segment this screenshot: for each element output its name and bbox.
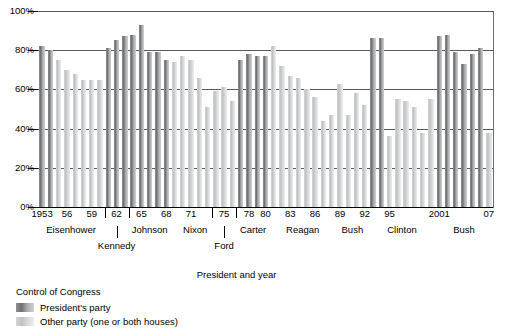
bar-2005 [470,54,475,207]
bar-1959 [89,80,94,207]
bar-1976 [230,101,235,207]
x-tick-label-80: 80 [260,208,271,219]
president-leader-line-kennedy [117,226,118,238]
bar-1968 [164,60,169,207]
bar-2000 [428,99,433,207]
president-label-bush-2001: Bush [453,224,475,235]
plot-right-border [493,11,494,208]
x-tick-label-71: 71 [186,208,197,219]
x-tick-label-56: 56 [62,208,73,219]
bar-1978 [246,54,251,207]
x-tick-label-89: 89 [335,208,346,219]
bar-series [38,11,493,207]
bar-1961 [106,48,111,207]
legend: Control of Congress President's party Ot… [16,286,178,330]
bar-1987 [321,121,326,207]
x-axis-title: President and year [0,269,511,280]
president-label-eisenhower-1953: Eisenhower [46,224,96,235]
bar-1985 [304,89,309,207]
president-label-nixon-1969: Nixon [183,224,207,235]
bracket-left-62 [105,207,106,218]
x-tick-label-75: 75 [219,208,230,219]
plot-area [38,11,493,207]
x-tick-label-65: 65 [136,208,147,219]
bracket-right-62 [129,207,130,218]
bar-1971 [188,60,193,207]
bar-1979 [255,56,260,207]
bar-2006 [478,48,483,207]
bar-1998 [412,107,417,207]
president-label-kennedy-1961: Kennedy [98,240,136,251]
y-tick-mark-80 [28,50,38,51]
bar-1966 [147,52,152,207]
bar-1972 [197,78,202,207]
x-tick-label-86: 86 [310,208,321,219]
bar-1981 [271,46,276,207]
bar-1974 [213,91,218,207]
x-axis-title-text: President and year [197,269,277,280]
bar-1973 [205,107,210,207]
bar-2001 [437,36,442,207]
y-axis: 0%20%40%60%80%100% [0,0,38,196]
x-tick-label-68: 68 [161,208,172,219]
bar-1953 [39,46,44,207]
bar-1996 [395,99,400,207]
x-tick-label-95: 95 [384,208,395,219]
bar-1982 [279,66,284,207]
bar-1997 [403,101,408,207]
president-label-clinton-1993: Clinton [387,224,417,235]
bar-1965 [139,25,144,207]
y-tick-mark-100 [28,11,38,12]
bar-1958 [81,80,86,207]
bar-1980 [263,56,268,207]
x-tick-label-78: 78 [244,208,255,219]
bar-1960 [97,80,102,207]
bar-2007 [486,133,491,207]
bracket-right-75 [236,207,237,218]
bar-1975 [221,87,226,207]
chart-container: 0%20%40%60%80%100% 195356596265687175788… [0,0,511,336]
x-tick-label-07: 07 [484,208,495,219]
bracket-left-75 [212,207,213,218]
legend-item-other-party: Other party (one or both houses) [16,316,178,327]
bar-1977 [238,60,243,207]
bar-1964 [130,35,135,207]
president-leader-line-ford [224,226,225,238]
bar-2003 [453,52,458,207]
president-label-reagan-1981: Reagan [286,224,319,235]
x-tick-label-83: 83 [285,208,296,219]
bar-1999 [420,133,425,207]
bar-1967 [155,52,160,207]
bar-2002 [445,35,450,207]
x-tick-label-92: 92 [359,208,370,219]
president-label-ford-1974: Ford [214,240,234,251]
president-label-bush-1989: Bush [342,224,364,235]
bar-1983 [288,76,293,207]
president-labels-row1: EisenhowerJohnsonNixonCarterReaganBushCl… [38,224,493,238]
y-tick-mark-60 [28,89,38,90]
president-labels-row2: KennedyFord [38,240,493,254]
bar-1992 [362,105,367,207]
bar-1984 [296,78,301,207]
bar-1963 [122,36,127,207]
x-tick-label-2001: 2001 [429,208,450,219]
x-tick-label-62: 62 [111,208,122,219]
legend-label-presidents-party: President's party [40,302,110,313]
y-tick-mark-40 [28,129,38,130]
bar-1995 [387,136,392,207]
president-label-johnson-1964: Johnson [132,224,168,235]
legend-label-other-party: Other party (one or both houses) [40,316,178,327]
bar-2004 [461,64,466,207]
bar-1994 [379,38,384,207]
legend-swatch-dark-icon [16,303,34,312]
x-axis-labels: 19535659626568717578808386899295200107 [38,208,493,222]
bar-1993 [370,38,375,207]
x-tick-label-1953: 1953 [32,208,53,219]
president-label-carter-1977: Carter [240,224,266,235]
bar-1969 [172,62,177,207]
bar-1970 [180,56,185,207]
x-tick-label-59: 59 [86,208,97,219]
bar-1991 [354,93,359,207]
bar-1954 [48,50,53,207]
legend-swatch-light-icon [16,317,34,326]
